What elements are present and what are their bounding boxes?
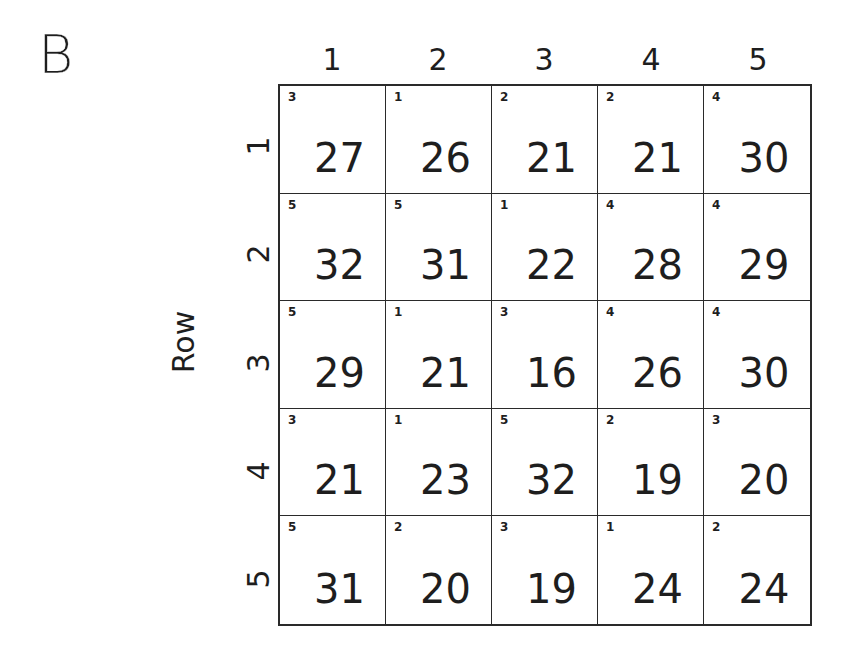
column-label: 3 bbox=[491, 42, 597, 77]
cell-value: 20 bbox=[704, 457, 810, 503]
cell-superscript: 5 bbox=[288, 520, 296, 534]
cell-superscript: 3 bbox=[500, 305, 508, 319]
grid-cell: 531 bbox=[280, 516, 386, 624]
cell-value: 24 bbox=[704, 566, 810, 612]
row-label: 5 bbox=[238, 559, 278, 599]
row-label: 4 bbox=[238, 451, 278, 491]
grid-cell: 320 bbox=[704, 409, 810, 517]
cell-superscript: 1 bbox=[394, 90, 402, 104]
grid-cell: 219 bbox=[598, 409, 704, 517]
cell-value: 26 bbox=[386, 135, 491, 181]
cell-superscript: 4 bbox=[712, 305, 720, 319]
grid-cell: 426 bbox=[598, 301, 704, 409]
cell-value: 31 bbox=[280, 566, 385, 612]
cell-value: 21 bbox=[280, 457, 385, 503]
cell-value: 23 bbox=[386, 457, 491, 503]
cell-value: 21 bbox=[386, 350, 491, 396]
cell-superscript: 4 bbox=[712, 198, 720, 212]
row-label: 3 bbox=[238, 343, 278, 383]
grid-cell: 321 bbox=[280, 409, 386, 517]
cell-value: 26 bbox=[598, 350, 703, 396]
grid-cell: 122 bbox=[492, 194, 598, 302]
grid-cell: 429 bbox=[704, 194, 810, 302]
cell-superscript: 4 bbox=[606, 198, 614, 212]
cell-superscript: 2 bbox=[394, 520, 402, 534]
grid-cell: 123 bbox=[386, 409, 492, 517]
cell-superscript: 5 bbox=[394, 198, 402, 212]
cell-superscript: 3 bbox=[288, 90, 296, 104]
grid-cell: 316 bbox=[492, 301, 598, 409]
cell-superscript: 4 bbox=[606, 305, 614, 319]
grid-cell: 529 bbox=[280, 301, 386, 409]
row-label: 1 bbox=[238, 126, 278, 166]
grid-cell: 126 bbox=[386, 86, 492, 194]
grid-cell: 121 bbox=[386, 301, 492, 409]
cell-value: 24 bbox=[598, 566, 703, 612]
cell-superscript: 1 bbox=[606, 520, 614, 534]
grid-cell: 430 bbox=[704, 301, 810, 409]
grid-cell: 532 bbox=[492, 409, 598, 517]
grid-cell: 531 bbox=[386, 194, 492, 302]
cell-value: 19 bbox=[492, 566, 597, 612]
cell-value: 27 bbox=[280, 135, 385, 181]
cell-value: 32 bbox=[492, 457, 597, 503]
cell-value: 28 bbox=[598, 242, 703, 288]
cell-value: 22 bbox=[492, 242, 597, 288]
cell-superscript: 2 bbox=[606, 413, 614, 427]
cell-value: 30 bbox=[704, 135, 810, 181]
grid-cell: 430 bbox=[704, 86, 810, 194]
cell-value: 16 bbox=[492, 350, 597, 396]
cell-value: 21 bbox=[598, 135, 703, 181]
cell-value: 21 bbox=[492, 135, 597, 181]
cell-superscript: 1 bbox=[500, 198, 508, 212]
panel-label: B bbox=[38, 28, 73, 82]
cell-value: 29 bbox=[280, 350, 385, 396]
grid-cell: 221 bbox=[492, 86, 598, 194]
column-label: 2 bbox=[385, 42, 491, 77]
cell-superscript: 3 bbox=[712, 413, 720, 427]
cell-value: 19 bbox=[598, 457, 703, 503]
grid-cell: 220 bbox=[386, 516, 492, 624]
grid-cell: 327 bbox=[280, 86, 386, 194]
cell-superscript: 2 bbox=[606, 90, 614, 104]
grid-cell: 532 bbox=[280, 194, 386, 302]
cell-superscript: 2 bbox=[500, 90, 508, 104]
cell-superscript: 3 bbox=[500, 520, 508, 534]
cell-value: 31 bbox=[386, 242, 491, 288]
row-label: 2 bbox=[238, 234, 278, 274]
column-label: 4 bbox=[598, 42, 704, 77]
cell-superscript: 3 bbox=[288, 413, 296, 427]
cell-superscript: 4 bbox=[712, 90, 720, 104]
cell-value: 30 bbox=[704, 350, 810, 396]
cell-superscript: 5 bbox=[288, 305, 296, 319]
grid-cell: 124 bbox=[598, 516, 704, 624]
grid-cell: 319 bbox=[492, 516, 598, 624]
row-axis-title: Row bbox=[166, 311, 201, 373]
cell-superscript: 1 bbox=[394, 305, 402, 319]
grid-cell: 221 bbox=[598, 86, 704, 194]
cell-superscript: 2 bbox=[712, 520, 720, 534]
cell-superscript: 5 bbox=[500, 413, 508, 427]
column-label: 1 bbox=[279, 42, 385, 77]
cell-value: 29 bbox=[704, 242, 810, 288]
value-grid: 327 126 221 221 430 532 531 122 428 429 … bbox=[278, 84, 812, 626]
cell-value: 20 bbox=[386, 566, 491, 612]
cell-superscript: 1 bbox=[394, 413, 402, 427]
grid-cell: 224 bbox=[704, 516, 810, 624]
cell-superscript: 5 bbox=[288, 198, 296, 212]
column-label: 5 bbox=[705, 42, 811, 77]
cell-value: 32 bbox=[280, 242, 385, 288]
grid-cell: 428 bbox=[598, 194, 704, 302]
